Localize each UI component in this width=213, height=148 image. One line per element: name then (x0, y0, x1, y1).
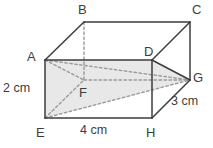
vertex-label-a: A (27, 50, 36, 63)
vertex-label-h: H (146, 126, 155, 139)
diagram-canvas: A B C D E F G H 2 cm 4 cm 3 cm (0, 0, 213, 148)
vertex-label-d: D (144, 45, 153, 58)
vertex-label-b: B (78, 3, 87, 16)
vertex-label-e: E (36, 126, 45, 139)
measurement-label-width: 4 cm (80, 124, 107, 137)
measurement-label-depth: 3 cm (171, 95, 198, 108)
vertex-label-g: G (193, 71, 203, 84)
vertex-label-f: F (79, 86, 87, 99)
vertex-label-c: C (192, 3, 201, 16)
measurement-label-height: 2 cm (3, 82, 30, 95)
